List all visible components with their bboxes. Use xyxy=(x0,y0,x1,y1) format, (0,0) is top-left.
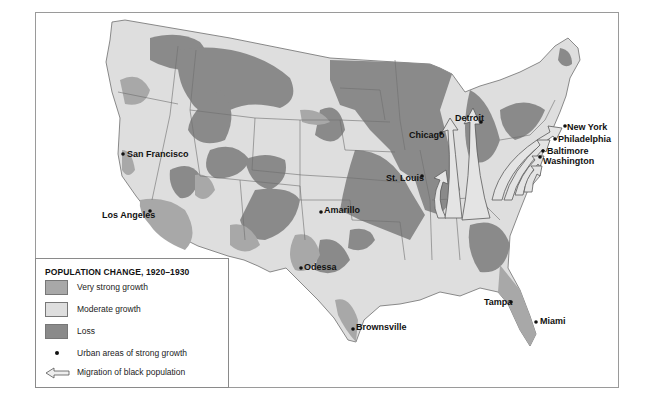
swatch-loss xyxy=(45,324,68,339)
legend-label-loss: Loss xyxy=(77,326,95,336)
city-label-chicago: Chicago xyxy=(409,130,445,140)
legend-item-urban-areas xyxy=(45,345,59,361)
city-label-new-york: New York xyxy=(567,122,607,132)
legend-item-moderate-growth xyxy=(45,301,68,317)
city-label-philadelphia: Philadelphia xyxy=(558,134,611,144)
legend-item-loss xyxy=(45,323,68,339)
city-label-miami: Miami xyxy=(540,316,566,326)
city-label-washington: Washington xyxy=(543,156,594,166)
map-legend: POPULATION CHANGE, 1920–1930 Very strong… xyxy=(35,258,229,388)
legend-title: POPULATION CHANGE, 1920–1930 xyxy=(45,267,189,277)
city-label-amarillo: Amarillo xyxy=(324,205,360,215)
city-label-los-angeles: Los Angeles xyxy=(102,210,155,220)
migration-arrow-icon xyxy=(45,367,71,379)
swatch-moderate-growth xyxy=(45,302,68,317)
legend-label-migration: Migration of black population xyxy=(77,367,185,377)
legend-item-very-strong-growth xyxy=(45,279,68,295)
city-label-baltimore: Baltimore xyxy=(547,146,589,156)
swatch-very-strong-growth xyxy=(45,280,68,295)
legend-label-very-strong-growth: Very strong growth xyxy=(77,282,148,292)
legend-label-moderate-growth: Moderate growth xyxy=(77,304,141,314)
city-label-odessa: Odessa xyxy=(304,262,337,272)
city-label-san-francisco: San Francisco xyxy=(127,149,189,159)
city-label-tampa: Tampa xyxy=(484,297,512,307)
urban-dot-icon xyxy=(55,351,59,355)
legend-item-migration xyxy=(45,365,71,381)
city-label-detroit: Detroit xyxy=(455,113,484,123)
city-label-st-louis: St. Louis xyxy=(386,173,424,183)
city-label-brownsville: Brownsville xyxy=(356,322,407,332)
legend-label-urban-areas: Urban areas of strong growth xyxy=(77,348,187,358)
